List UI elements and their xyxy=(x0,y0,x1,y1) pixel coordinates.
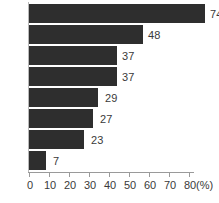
bar-row: 23 xyxy=(29,130,219,149)
bar-row: 29 xyxy=(29,88,219,107)
bar[interactable] xyxy=(29,130,84,149)
bar-row: 48 xyxy=(29,25,219,44)
bar[interactable] xyxy=(29,88,98,107)
bar[interactable] xyxy=(29,109,93,128)
plot-area: 74 48 37 37 29 27 23 7 xyxy=(29,4,219,172)
bar-row: 27 xyxy=(29,109,219,128)
bar[interactable] xyxy=(29,67,117,86)
bar[interactable] xyxy=(29,4,205,23)
bar-value-label: 27 xyxy=(100,113,113,124)
bar-value-label: 7 xyxy=(53,155,59,166)
x-axis-tick xyxy=(189,173,190,177)
bar-value-label: 74 xyxy=(210,8,219,19)
x-axis-tick xyxy=(109,173,110,177)
x-axis-tick xyxy=(69,173,70,177)
x-axis-tick-label: 10 xyxy=(44,180,56,191)
bar-row: 7 xyxy=(29,151,219,170)
x-axis-tick-label: 70 xyxy=(164,180,176,191)
x-axis-tick xyxy=(49,173,50,177)
x-axis-tick xyxy=(169,173,170,177)
x-axis-tick-label: 40 xyxy=(104,180,116,191)
x-axis-tick xyxy=(149,173,150,177)
bar-value-label: 37 xyxy=(122,50,135,61)
x-axis-unit-label: (%) xyxy=(196,180,213,191)
bar[interactable] xyxy=(29,151,46,170)
x-axis-tick xyxy=(29,173,30,177)
x-axis-tick-label: 0 xyxy=(27,180,33,191)
x-axis-tick xyxy=(129,173,130,177)
bar-row: 37 xyxy=(29,46,219,65)
bar[interactable] xyxy=(29,46,117,65)
x-axis-tick-label: 60 xyxy=(144,180,156,191)
x-axis-tick-label: 50 xyxy=(124,180,136,191)
bar-value-label: 29 xyxy=(105,92,118,103)
bar[interactable] xyxy=(29,25,143,44)
y-axis-line xyxy=(28,2,29,172)
x-axis-tick-label: 30 xyxy=(84,180,96,191)
bar-value-label: 48 xyxy=(148,29,161,40)
bar-value-label: 23 xyxy=(91,134,104,145)
bar-row: 74 xyxy=(29,4,219,23)
bar-row: 37 xyxy=(29,67,219,86)
bar-value-label: 37 xyxy=(122,71,135,82)
x-axis-tick-label: 20 xyxy=(64,180,76,191)
bar-chart: 74 48 37 37 29 27 23 7 xyxy=(0,0,219,203)
x-axis-tick-label: 80 xyxy=(184,180,196,191)
x-axis-tick xyxy=(89,173,90,177)
